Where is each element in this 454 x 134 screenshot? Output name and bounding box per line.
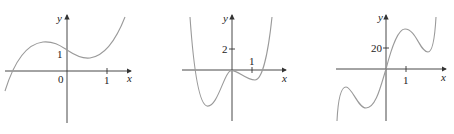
x-axis-label: x bbox=[126, 72, 132, 84]
y-axis-label: y bbox=[56, 12, 62, 24]
y-tick-label: 2 bbox=[222, 43, 228, 55]
y-axis-label: y bbox=[377, 11, 383, 23]
x-axis-label: x bbox=[281, 72, 287, 84]
y-axis-label: y bbox=[222, 12, 228, 24]
x-tick-label: 1 bbox=[403, 74, 409, 86]
curve bbox=[190, 17, 272, 106]
graph-a: y x 1 0 1 bbox=[5, 12, 132, 123]
graph-c: y x 20 1 bbox=[336, 11, 446, 121]
origin-label: 0 bbox=[58, 73, 64, 85]
y-tick-label: 20 bbox=[371, 42, 383, 54]
graphs-figure: y x 1 0 1 y x 2 1 y x 20 1 bbox=[0, 0, 454, 134]
x-tick-label: 1 bbox=[249, 55, 255, 67]
y-tick-label: 1 bbox=[57, 48, 63, 60]
x-tick-label: 1 bbox=[104, 74, 110, 86]
x-axis-label: x bbox=[440, 71, 446, 83]
graph-b: y x 2 1 bbox=[182, 12, 287, 121]
